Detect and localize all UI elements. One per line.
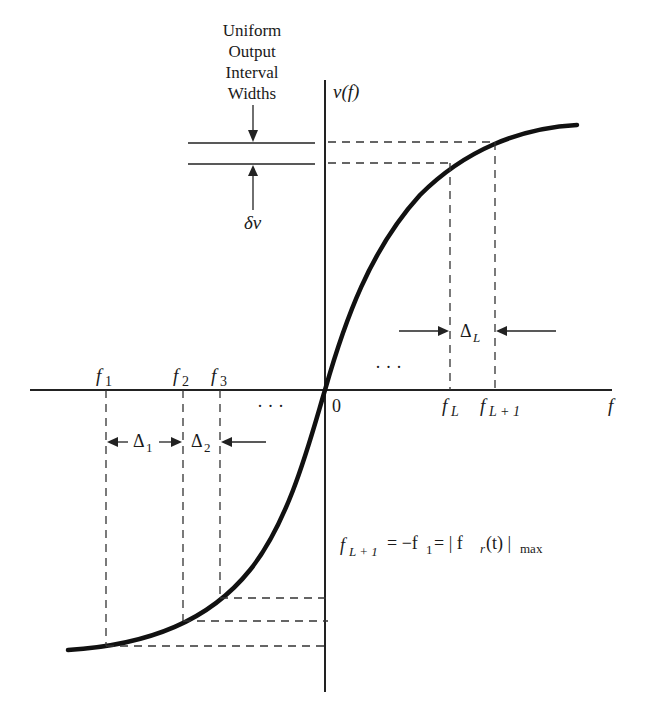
svg-text:f: f	[442, 395, 450, 416]
arrow-left-icon	[107, 437, 118, 447]
svg-text:max: max	[520, 541, 543, 556]
ellipsis-left: · · ·	[257, 396, 284, 416]
svg-text:f: f	[340, 535, 348, 555]
svg-text:L: L	[450, 404, 459, 419]
equation: f L + 1 = −f 1 = | f r (t) | max	[340, 533, 543, 559]
svg-text:Δ: Δ	[191, 431, 203, 451]
quantizer-diagram: Uniform Output Interval Widths v(f) δv f…	[0, 0, 646, 719]
svg-text:f: f	[211, 365, 219, 386]
interval-delta-L: Δ L	[460, 321, 480, 345]
svg-text:L + 1: L + 1	[488, 404, 520, 419]
svg-text:f: f	[480, 395, 488, 416]
svg-text:L: L	[472, 330, 480, 345]
arrow-right-icon	[171, 437, 182, 447]
svg-text:Δ: Δ	[460, 321, 472, 341]
tick-fL1: f L + 1	[480, 395, 520, 419]
tick-f3: f 3	[211, 365, 227, 389]
svg-text:Interval: Interval	[226, 63, 279, 82]
svg-text:2: 2	[204, 440, 211, 455]
origin-label: 0	[332, 396, 341, 416]
svg-text:2: 2	[182, 374, 189, 389]
svg-text:= −f: = −f	[387, 533, 418, 553]
svg-text:(t) |: (t) |	[486, 533, 511, 554]
svg-text:L + 1: L + 1	[348, 544, 378, 559]
dashed-guides	[106, 142, 495, 646]
arrow-up-icon	[248, 165, 258, 176]
arrow-down-icon	[248, 130, 258, 142]
svg-text:f: f	[96, 365, 104, 386]
svg-text:Uniform: Uniform	[223, 21, 282, 40]
svg-text:f: f	[173, 365, 181, 386]
delta-v-label: δv	[244, 212, 262, 233]
x-axis-label: f	[608, 395, 616, 416]
tick-f2: f 2	[173, 365, 189, 389]
interval-delta-1: Δ 1	[133, 431, 153, 455]
interval-delta-2: Δ 2	[191, 431, 211, 455]
svg-text:Output: Output	[228, 42, 276, 61]
arrow-left-icon	[221, 437, 232, 447]
svg-text:1: 1	[426, 542, 433, 557]
svg-text:3: 3	[220, 374, 227, 389]
ellipsis-right: · · ·	[375, 357, 402, 377]
svg-text:1: 1	[105, 374, 112, 389]
svg-text:= | f: = | f	[434, 533, 463, 553]
svg-text:Widths: Widths	[228, 84, 276, 103]
compressor-curve	[68, 125, 577, 650]
svg-text:1: 1	[146, 440, 153, 455]
svg-text:Δ: Δ	[133, 431, 145, 451]
annotation-title: Uniform Output Interval Widths	[223, 21, 282, 103]
arrow-right-icon	[438, 326, 449, 336]
tick-fL: f L	[442, 395, 459, 419]
y-axis-label: v(f)	[333, 81, 359, 103]
arrow-left-icon	[496, 326, 507, 336]
tick-f1: f 1	[96, 365, 112, 389]
